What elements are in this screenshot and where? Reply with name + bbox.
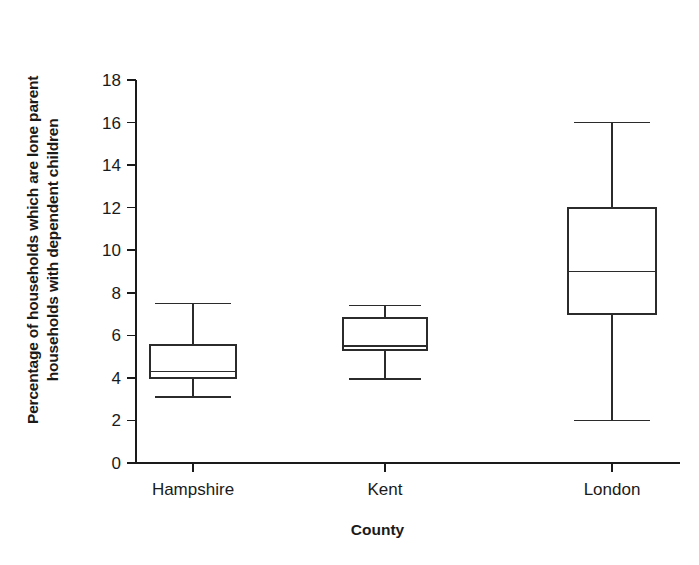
box-iqr (150, 345, 236, 378)
y-axis-tick-label: 14 (102, 156, 121, 175)
x-axis-title-text: County (351, 521, 404, 539)
y-axis-tick-label: 18 (102, 71, 121, 90)
y-axis-tick-label: 8 (112, 284, 121, 303)
plot-area: 024681012141618HampshireKentLondon (0, 0, 699, 565)
y-axis-tick-label: 4 (112, 369, 121, 388)
x-axis-category-label: Kent (368, 480, 403, 499)
y-axis-tick-label: 12 (102, 199, 121, 218)
box-iqr (568, 208, 656, 314)
y-axis-tick-label: 16 (102, 114, 121, 133)
boxplot-figure: Percentage of households which are lone … (0, 0, 699, 565)
y-axis-tick-label: 10 (102, 241, 121, 260)
x-axis-category-label: London (584, 480, 641, 499)
y-axis-tick-label: 0 (112, 454, 121, 473)
x-axis-title: County (0, 521, 699, 539)
y-axis-tick-label: 2 (112, 411, 121, 430)
y-axis-tick-label: 6 (112, 326, 121, 345)
x-axis-category-label: Hampshire (152, 480, 234, 499)
